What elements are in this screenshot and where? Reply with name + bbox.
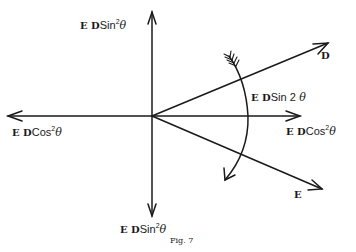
label-bottom-var: θ [160, 223, 167, 236]
label-arc: E DSin 2 θ [251, 91, 306, 104]
label-top-ed: E D [80, 20, 100, 31]
label-bottom-fn: Sin [140, 223, 156, 235]
rotation-arc [225, 56, 248, 180]
label-vector-e: E [294, 189, 302, 201]
label-bottom: E DSin2θ [120, 220, 166, 236]
label-top: E DSin2θ [80, 16, 126, 32]
vector-e-arrowhead-icon [308, 180, 322, 190]
label-right-fn: Cos [306, 125, 326, 137]
label-top-var: θ [120, 19, 127, 32]
label-left-fn: Cos [32, 126, 52, 138]
label-right-var: θ [329, 125, 336, 138]
label-top-fn: Sin [100, 19, 116, 31]
label-vector-d: D [321, 50, 330, 62]
label-bottom-ed: E D [120, 224, 140, 235]
label-left-ed: E D [12, 127, 32, 138]
label-arc-fn: Sin 2 [271, 91, 296, 103]
label-arc-ed: E D [251, 92, 271, 103]
vector-d-line [152, 43, 328, 116]
label-left-var: θ [55, 126, 62, 139]
label-right-ed: E D [286, 126, 306, 137]
label-right: E DCos2θ [286, 122, 336, 138]
label-left: E DCos2θ [12, 123, 62, 139]
figure-caption: Fig. 7 [170, 235, 193, 247]
label-arc-var: θ [299, 91, 306, 104]
